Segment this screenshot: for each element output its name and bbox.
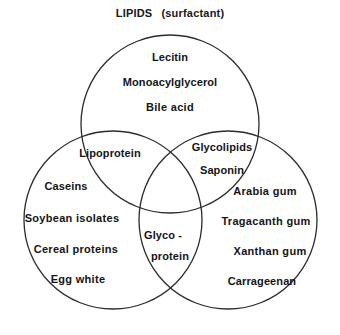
item-caseins: Caseins <box>45 180 88 192</box>
item-soybean-isolates: Soybean isolates <box>25 212 120 224</box>
item-saponin: Saponin <box>200 164 244 176</box>
item-glycolipids: Glycolipids <box>192 141 252 153</box>
item-xanthan-gum: Xanthan gum <box>234 245 307 257</box>
item-lecitin: Lecitin <box>152 51 188 63</box>
item-arabia-gum: Arabia gum <box>233 185 297 197</box>
item-monoacylglycerol: Monoacylglycerol <box>123 76 218 88</box>
item-bile-acid: Bile acid <box>146 101 194 113</box>
item-egg-white: Egg white <box>51 273 106 285</box>
item-lipoprotein: Lipoprotein <box>79 147 141 159</box>
item-carrageenan: Carrageenan <box>228 275 296 287</box>
item-tragacanth-gum: Tragacanth gum <box>221 215 310 227</box>
item-cereal-proteins: Cereal proteins <box>34 243 119 255</box>
item-glycoprotein-line2: protein <box>151 250 189 262</box>
item-glycoprotein-line1: Glyco - <box>144 229 182 241</box>
venn-diagram-figure: LIPIDS(surfactant) Lecitin Monoacylglyce… <box>0 0 340 335</box>
